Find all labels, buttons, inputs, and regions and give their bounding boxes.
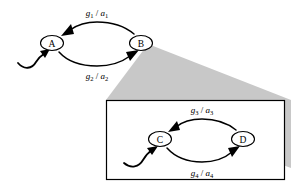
state-a-label: A: [49, 39, 56, 49]
state-machine-diagram: A B g1 / a1 g2 / a2: [0, 0, 291, 189]
state-d-label: D: [240, 135, 247, 145]
state-node-a[interactable]: A: [41, 36, 64, 51]
state-node-d[interactable]: D: [232, 132, 255, 147]
initial-arrow-a: [18, 49, 50, 68]
transition-a-to-b: [59, 50, 139, 66]
state-b-label: B: [138, 39, 144, 49]
transition-b-to-a: [61, 22, 134, 36]
state-node-b[interactable]: B: [130, 36, 153, 51]
state-node-c[interactable]: C: [149, 132, 172, 147]
figure-root: A B g1 / a1 g2 / a2: [0, 0, 291, 189]
state-c-label: C: [157, 135, 163, 145]
transition-label-g3-a3: g3 / a3: [191, 105, 214, 116]
transition-label-g1-a1: g1 / a1: [86, 8, 109, 19]
transition-label-g2-a2: g2 / a2: [86, 71, 109, 82]
